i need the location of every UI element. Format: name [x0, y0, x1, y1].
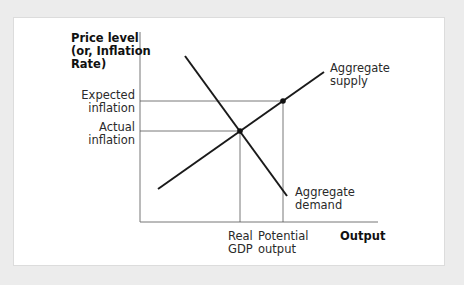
real-gdp-label: Real GDP [228, 230, 253, 256]
aggregate-demand-line [185, 56, 287, 196]
label-line: inflation [60, 102, 135, 115]
label-line: supply [330, 75, 390, 88]
aggregate-demand-label: Aggregate demand [295, 186, 355, 212]
y-axis-title: Price level (or, Inflation Rate) [71, 32, 151, 71]
y-axis-title-line: Rate) [71, 58, 151, 71]
actual-inflation-label: Actual inflation [60, 121, 135, 147]
label-line: output [258, 243, 308, 256]
potential-output-label: Potential output [258, 230, 308, 256]
aggregate-supply-label: Aggregate supply [330, 62, 390, 88]
label-line: inflation [60, 134, 135, 147]
equilibrium-point [237, 128, 243, 134]
label-line: demand [295, 199, 355, 212]
label-line: GDP [228, 243, 253, 256]
expected-inflation-label: Expected inflation [60, 89, 135, 115]
expected-point [280, 98, 286, 104]
x-axis-title: Output [340, 230, 385, 243]
